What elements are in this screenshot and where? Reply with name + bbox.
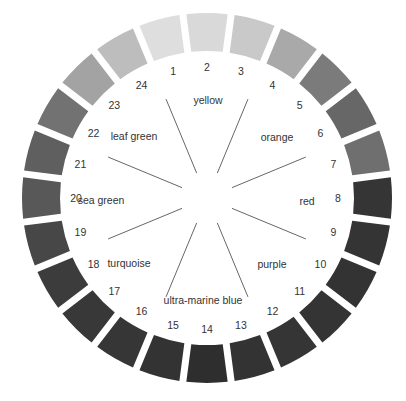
segment-number-label: 23 (109, 99, 121, 111)
color-name-labels: yelloworangeredpurpleultra-marine bluetu… (78, 94, 315, 306)
segment-number-label: 7 (331, 158, 337, 170)
color-segment-8 (353, 177, 392, 218)
segment-number-label: 3 (238, 65, 244, 77)
color-segment-15 (139, 335, 184, 381)
color-name-label: turquoise (107, 257, 150, 269)
segment-number-label: 2 (204, 61, 210, 73)
color-segment-7 (344, 130, 390, 175)
segment-number-label: 21 (75, 158, 87, 170)
segment-number-label: 15 (167, 319, 179, 331)
color-name-label: ultra-marine blue (164, 294, 243, 306)
segment-number-label: 16 (136, 305, 148, 317)
divider-spoke (108, 208, 182, 239)
color-segment-9 (344, 221, 390, 266)
color-name-label: leaf green (111, 130, 158, 142)
segment-number-label: 9 (331, 226, 337, 238)
segment-number-label: 10 (315, 258, 327, 270)
color-segment-1 (139, 15, 184, 61)
divider-spoke (217, 223, 248, 297)
color-segment-2 (186, 13, 227, 52)
color-name-label: orange (261, 131, 294, 143)
color-segment-19 (24, 221, 70, 266)
segment-number-label: 1 (170, 65, 176, 77)
segment-number-label: 5 (297, 99, 303, 111)
color-segment-14 (186, 344, 227, 383)
color-segment-13 (230, 335, 275, 381)
segment-number-label: 11 (294, 285, 305, 297)
segment-number-label: 24 (136, 79, 148, 91)
segment-number-label: 19 (75, 226, 87, 238)
color-name-label: red (299, 195, 314, 207)
segment-number-label: 17 (109, 285, 121, 297)
color-name-label: yellow (193, 94, 223, 106)
divider-spoke (232, 157, 306, 188)
color-segment-21 (24, 130, 70, 175)
divider-spoke (166, 99, 197, 173)
segment-number-label: 13 (235, 319, 247, 331)
divider-spoke (166, 223, 197, 297)
segment-number-label: 14 (201, 323, 213, 335)
color-segment-20 (22, 177, 61, 218)
segment-number-label: 12 (267, 305, 279, 317)
divider-spoke (232, 208, 306, 239)
color-wheel-diagram: 123456789101112131415161718192021222324 … (0, 0, 406, 401)
segment-number-label: 22 (88, 127, 100, 139)
color-name-label: sea green (78, 194, 125, 206)
segment-number-label: 8 (335, 192, 341, 204)
divider-spoke (108, 157, 182, 188)
segment-number-label: 18 (88, 258, 100, 270)
color-name-label: purple (257, 258, 286, 270)
color-segment-3 (230, 15, 275, 61)
divider-spoke (217, 99, 248, 173)
segment-number-label: 6 (318, 127, 324, 139)
segment-number-label: 4 (270, 79, 276, 91)
